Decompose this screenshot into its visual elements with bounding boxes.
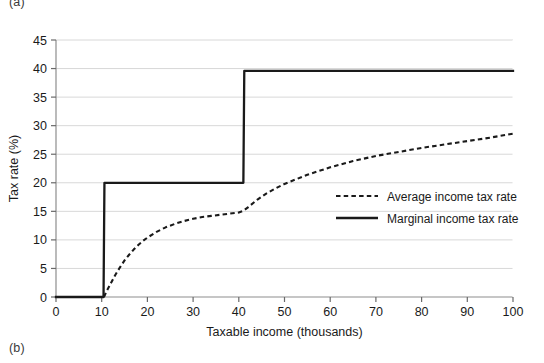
x-axis-tick-labels: 0102030405060708090100 — [53, 305, 524, 319]
y-axis-ticks — [51, 40, 56, 297]
x-tick-label: 20 — [140, 305, 154, 319]
y-tick-label: 30 — [33, 119, 47, 133]
axis-titles: Taxable income (thousands)Tax rate (%) — [7, 135, 363, 339]
x-tick-label: 40 — [232, 305, 246, 319]
y-tick-label: 0 — [40, 291, 47, 305]
y-tick-label: 20 — [33, 176, 47, 190]
x-axis-title: Taxable income (thousands) — [206, 325, 362, 339]
y-tick-label: 35 — [33, 91, 47, 105]
x-tick-label: 90 — [460, 305, 474, 319]
x-tick-label: 10 — [95, 305, 109, 319]
figure-panel-a: (a) (b) 051015202530354045 0102030405060… — [0, 0, 544, 363]
y-axis-tick-labels: 051015202530354045 — [33, 34, 47, 305]
y-tick-label: 40 — [33, 62, 47, 76]
x-tick-label: 70 — [369, 305, 383, 319]
x-axis-ticks — [56, 297, 513, 302]
y-tick-label: 5 — [40, 262, 47, 276]
y-axis-title: Tax rate (%) — [7, 135, 21, 202]
x-tick-label: 80 — [415, 305, 429, 319]
plot-frame — [56, 40, 513, 297]
x-tick-label: 30 — [186, 305, 200, 319]
y-tick-label: 15 — [33, 205, 47, 219]
tax-rate-chart: 051015202530354045 010203040506070809010… — [0, 0, 544, 363]
x-tick-label: 50 — [278, 305, 292, 319]
chart-legend: Average income tax rateMarginal income t… — [336, 190, 519, 226]
data-series-layer — [56, 71, 513, 297]
y-tick-label: 10 — [33, 233, 47, 247]
x-tick-label: 60 — [323, 305, 337, 319]
legend-label: Marginal income tax rate — [387, 212, 519, 226]
y-tick-label: 25 — [33, 148, 47, 162]
grid-lines — [56, 40, 513, 268]
legend-label: Average income tax rate — [387, 190, 517, 204]
x-tick-label: 100 — [503, 305, 524, 319]
x-tick-label: 0 — [53, 305, 60, 319]
y-tick-label: 45 — [33, 34, 47, 48]
